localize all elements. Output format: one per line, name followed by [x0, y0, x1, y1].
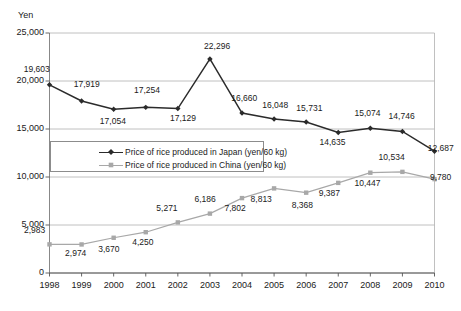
- data-label-china-2005: 8,813: [251, 194, 272, 204]
- legend-item-china: Price of rice produced in China (yen/60 …: [99, 159, 286, 171]
- legend-swatch-china-icon: [99, 161, 123, 170]
- data-label-china-2007: 9,387: [319, 188, 340, 198]
- y-axis-tick-20000: 20,000: [0, 75, 44, 85]
- data-label-japan-2006: 15,731: [296, 103, 322, 113]
- data-label-japan-1999: 17,919: [74, 79, 100, 89]
- legend-item-japan: Price of rice produced in Japan (yen/60 …: [99, 146, 287, 158]
- y-axis-tick-15000: 15,000: [0, 123, 44, 133]
- data-label-japan-2001: 17,254: [134, 85, 160, 95]
- data-label-china-2010: 9,780: [430, 172, 451, 182]
- data-label-japan-2005: 16,048: [262, 100, 288, 110]
- data-label-china-2000: 3,670: [98, 244, 119, 254]
- y-axis-tick-25000: 25,000: [0, 27, 44, 37]
- y-axis-tick-0: 0: [0, 267, 44, 277]
- data-label-china-2008: 10,447: [355, 178, 381, 188]
- y-axis-tick-10000: 10,000: [0, 171, 44, 181]
- data-label-japan-2009: 14,746: [389, 111, 415, 121]
- data-label-china-2004: 7,802: [225, 203, 246, 213]
- data-label-china-2009: 10,534: [379, 152, 405, 162]
- data-label-japan-2002: 17,129: [170, 113, 196, 123]
- x-axis-tick-2010: 2010: [415, 280, 455, 290]
- data-label-china-2001: 4,250: [132, 237, 153, 247]
- data-label-japan-1998: 19,603: [24, 64, 50, 74]
- data-label-japan-2000: 17,054: [100, 116, 126, 126]
- chart-legend: Price of rice produced in Japan (yen/60 …: [50, 141, 264, 172]
- rice-price-line-chart: Yen 25,00020,00015,00010,0005,0000 19981…: [0, 0, 461, 311]
- data-label-china-2002: 5,271: [156, 203, 177, 213]
- legend-label-china: Price of rice produced in China (yen/60 …: [125, 160, 286, 170]
- data-label-japan-2003: 22,296: [204, 41, 230, 51]
- legend-label-japan: Price of rice produced in Japan (yen/60 …: [125, 147, 287, 157]
- data-label-japan-2007: 14,635: [319, 137, 345, 147]
- data-label-china-1998: 2,983: [24, 225, 45, 235]
- data-label-japan-2010: 12,687: [428, 143, 454, 153]
- data-label-japan-2004: 16,660: [231, 93, 257, 103]
- legend-swatch-japan-icon: [99, 148, 123, 157]
- data-label-china-1999: 2,974: [65, 248, 86, 258]
- data-label-japan-2008: 15,074: [355, 108, 381, 118]
- data-label-china-2006: 8,368: [292, 200, 313, 210]
- data-label-china-2003: 6,186: [194, 194, 215, 204]
